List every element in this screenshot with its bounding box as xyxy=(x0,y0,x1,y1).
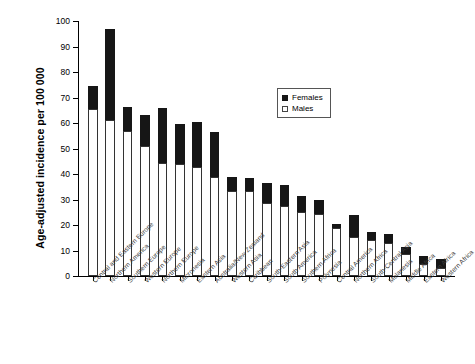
y-tick-mark xyxy=(73,72,78,73)
bar-stack xyxy=(105,21,115,276)
y-tick-label: 30 xyxy=(44,196,70,204)
legend-item-males: Males xyxy=(282,103,323,114)
males-swatch-icon xyxy=(282,106,288,112)
females-swatch-icon xyxy=(282,95,288,101)
bar-stack xyxy=(210,21,220,276)
bar-stack xyxy=(332,21,342,276)
bar-segment-females xyxy=(105,29,115,121)
bar-segment-males xyxy=(105,120,115,276)
y-tick-mark xyxy=(73,98,78,99)
bar-stack xyxy=(175,21,185,276)
y-tick-label: 80 xyxy=(44,68,70,76)
bar-stack xyxy=(349,21,359,276)
bar-stack xyxy=(158,21,168,276)
bar-segment-females xyxy=(349,215,359,237)
bar-segment-females xyxy=(158,108,168,163)
bar-segment-females xyxy=(88,86,98,109)
y-tick-mark xyxy=(73,174,78,175)
y-tick-mark xyxy=(73,21,78,22)
bar-segment-females xyxy=(367,232,377,240)
y-tick-label: 10 xyxy=(44,247,70,255)
y-tick-mark xyxy=(73,123,78,124)
y-tick-mark xyxy=(73,276,78,277)
bar-segment-females xyxy=(384,234,394,243)
legend-label-males: Males xyxy=(292,104,313,113)
y-tick-label: 70 xyxy=(44,94,70,102)
bar-stack xyxy=(227,21,237,276)
bar-segment-females xyxy=(262,183,272,203)
bar-segment-males xyxy=(88,109,98,276)
bar-stack xyxy=(314,21,324,276)
bar-segment-females xyxy=(192,122,202,167)
bar-stack xyxy=(192,21,202,276)
bar-segment-females xyxy=(175,124,185,164)
y-tick-label: 40 xyxy=(44,170,70,178)
chart-legend: Females Males xyxy=(277,88,331,118)
y-tick-mark xyxy=(73,200,78,201)
x-axis-labels: Central and Eastern EuropeNorthern Ameri… xyxy=(78,279,473,364)
y-tick-mark xyxy=(73,251,78,252)
y-tick-label: 60 xyxy=(44,119,70,127)
legend-label-females: Females xyxy=(292,93,323,102)
bar-stack xyxy=(367,21,377,276)
y-tick-label: 50 xyxy=(44,145,70,153)
bar-segment-females xyxy=(245,178,255,192)
bar-segment-females xyxy=(332,224,342,228)
y-tick-mark xyxy=(73,225,78,226)
bar-segment-females xyxy=(140,115,150,146)
bar-segment-females xyxy=(314,200,324,214)
bar-segment-females xyxy=(210,132,220,177)
bar-stack xyxy=(436,21,446,276)
bar-segment-females xyxy=(280,185,290,205)
y-tick-mark xyxy=(73,149,78,150)
y-tick-label: 0 xyxy=(44,272,70,280)
y-tick-label: 100 xyxy=(44,17,70,25)
y-tick-mark xyxy=(73,47,78,48)
bar-stack xyxy=(384,21,394,276)
bar-segment-females xyxy=(123,107,133,131)
y-axis-line xyxy=(78,21,79,277)
bar-stack xyxy=(419,21,429,276)
bar-stack xyxy=(280,21,290,276)
bar-segment-females xyxy=(227,177,237,191)
y-tick-label: 20 xyxy=(44,221,70,229)
bar-segment-females xyxy=(297,196,307,212)
legend-item-females: Females xyxy=(282,92,323,103)
bar-stack xyxy=(401,21,411,276)
bar-stack xyxy=(88,21,98,276)
y-tick-label: 90 xyxy=(44,43,70,51)
